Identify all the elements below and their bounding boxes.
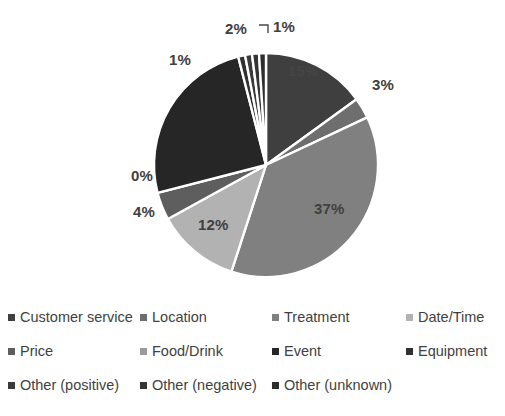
legend-label: Food/Drink xyxy=(152,344,223,359)
leader-line-group xyxy=(259,25,268,33)
legend-swatch-icon xyxy=(140,314,147,321)
legend-item-date-time[interactable]: Date/Time xyxy=(406,306,484,328)
legend-item-price[interactable]: Price xyxy=(8,340,53,362)
legend-row: Customer serviceLocationTreatmentDate/Ti… xyxy=(0,306,505,338)
legend-row: Other (positive)Other (negative)Other (u… xyxy=(0,374,505,406)
legend-swatch-icon xyxy=(406,348,413,355)
legend-row: PriceFood/DrinkEventEquipment xyxy=(0,340,505,372)
pie-plot-area: Customer service: 15%Location: 3%Treatme… xyxy=(0,0,505,300)
pie-svg: Customer service: 15%Location: 3%Treatme… xyxy=(0,0,505,300)
slice-label-location: 3% xyxy=(372,76,394,93)
legend-label: Date/Time xyxy=(418,310,484,325)
legend-label: Customer service xyxy=(20,310,133,325)
slice-label-treatment: 37% xyxy=(314,200,345,217)
legend-item-food-drink[interactable]: Food/Drink xyxy=(140,340,223,362)
legend-swatch-icon xyxy=(8,348,15,355)
legend-swatch-icon xyxy=(272,314,279,321)
legend-item-location[interactable]: Location xyxy=(140,306,207,328)
legend-item-other-unknown[interactable]: Other (unknown) xyxy=(272,374,392,396)
slice-label-other-negative: 1% xyxy=(273,18,295,35)
slice-label-date-time: 12% xyxy=(198,216,229,233)
slice-label-food-drink: 0% xyxy=(131,167,153,184)
legend-swatch-icon xyxy=(272,348,279,355)
slice-label-equipment: 1% xyxy=(169,51,191,68)
legend-item-other-positive[interactable]: Other (positive) xyxy=(8,374,119,396)
legend-swatch-icon xyxy=(272,382,279,389)
pie-slice-group: Customer service: 15%Location: 3%Treatme… xyxy=(154,53,378,277)
legend-item-event[interactable]: Event xyxy=(272,340,321,362)
leader-line-other-negative xyxy=(259,25,268,33)
legend-swatch-icon xyxy=(140,382,147,389)
legend-label: Other (positive) xyxy=(20,378,119,393)
legend-label: Location xyxy=(152,310,207,325)
pie-chart-figure: Customer service: 15%Location: 3%Treatme… xyxy=(0,0,505,416)
legend-item-treatment[interactable]: Treatment xyxy=(272,306,350,328)
chart-legend: Customer serviceLocationTreatmentDate/Ti… xyxy=(0,300,505,416)
legend-item-other-negative[interactable]: Other (negative) xyxy=(140,374,257,396)
legend-label: Other (unknown) xyxy=(284,378,392,393)
legend-swatch-icon xyxy=(8,314,15,321)
legend-item-customer-service[interactable]: Customer service xyxy=(8,306,133,328)
legend-label: Event xyxy=(284,344,321,359)
legend-label: Price xyxy=(20,344,53,359)
legend-label: Other (negative) xyxy=(152,378,257,393)
slice-label-price: 4% xyxy=(133,203,155,220)
legend-swatch-icon xyxy=(140,348,147,355)
legend-swatch-icon xyxy=(406,314,413,321)
legend-swatch-icon xyxy=(8,382,15,389)
legend-label: Equipment xyxy=(418,344,487,359)
legend-label: Treatment xyxy=(284,310,350,325)
legend-item-equipment[interactable]: Equipment xyxy=(406,340,487,362)
slice-label-other-positive: 2% xyxy=(225,20,247,37)
slice-label-customer-service: 15% xyxy=(288,62,319,79)
